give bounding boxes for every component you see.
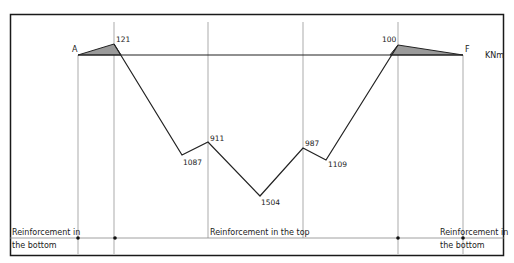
region-middle: Reinforcement in the top [210, 228, 310, 237]
moment-diagram: A F KNm 121 100 1087 911 1504 987 1109 R… [0, 0, 514, 263]
region-right-line1: Reinforcement in [440, 228, 508, 237]
region-left-line1: Reinforcement in [12, 228, 80, 237]
value-right-hogging: 100 [382, 35, 397, 44]
right-hogging-area [390, 45, 463, 55]
support-label-a: A [72, 45, 78, 54]
region-right-line2: the bottom [440, 241, 485, 250]
support-label-f: F [465, 45, 470, 54]
grid-lines [78, 22, 463, 254]
value-p5: 1109 [328, 160, 347, 169]
region-left-line2: the bottom [12, 241, 57, 250]
value-p3: 1504 [261, 198, 280, 207]
value-p2: 911 [210, 134, 225, 143]
value-left-hogging: 121 [116, 35, 131, 44]
moment-curve [114, 44, 398, 196]
unit-label: KNm [485, 51, 504, 60]
value-p1: 1087 [183, 158, 202, 167]
value-p4: 987 [305, 139, 320, 148]
